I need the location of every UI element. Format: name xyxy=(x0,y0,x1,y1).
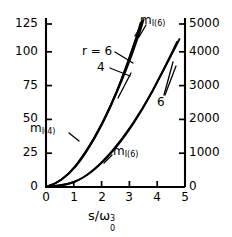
x-axis-label-base: s/ xyxy=(88,208,99,223)
right-tick-4000: 4000 xyxy=(189,45,229,57)
left-tick-75: 75 xyxy=(4,79,38,91)
x-tick-1: 1 xyxy=(66,191,82,203)
x-tick-3: 3 xyxy=(121,191,137,203)
x-tick-5: 5 xyxy=(177,191,193,203)
right-tick-5000: 5000 xyxy=(189,17,229,29)
left-tick-100: 100 xyxy=(4,45,38,57)
m16-mid-sub: I(6) xyxy=(125,150,139,159)
x-axis-label-omega: ω xyxy=(99,208,110,223)
curve-m16-r6 xyxy=(46,39,180,187)
annotation-six: 6 xyxy=(157,96,165,108)
x-axis-label-subscript: 0 xyxy=(110,225,115,233)
curve-group-m16 xyxy=(46,39,180,187)
right-tick-0: 0 xyxy=(189,180,229,192)
x-tick-2: 2 xyxy=(94,191,110,203)
right-tick-3000: 3000 xyxy=(189,79,229,91)
left-tick-25: 25 xyxy=(4,146,38,158)
annotation-four: 4 xyxy=(97,61,105,73)
left-tick-0: 0 xyxy=(4,180,38,192)
m16-top-sub: I(6) xyxy=(152,19,166,28)
leader-m14 xyxy=(69,133,79,141)
annotation-m16-top: mI(6) xyxy=(140,14,165,28)
m16-top-base: m xyxy=(140,13,152,27)
left-tick-125: 125 xyxy=(4,17,38,29)
right-tick-1000: 1000 xyxy=(189,146,229,158)
curve-m16-r2 xyxy=(46,42,177,187)
right-tick-2000: 2000 xyxy=(189,112,229,124)
x-tick-4: 4 xyxy=(149,191,165,203)
m14-base: m xyxy=(30,121,42,135)
annotation-m14: mI(4) xyxy=(30,122,55,136)
annotation-r-equals: r = 6 xyxy=(82,45,112,57)
x-axis-label: s/ω 3 0 xyxy=(88,209,116,222)
figure-panel: 125 100 75 50 25 0 5000 4000 3000 2000 1… xyxy=(0,0,232,237)
x-tick-0: 0 xyxy=(38,191,54,203)
annotation-m16-mid: mI(6) xyxy=(113,145,138,159)
m14-sub: I(4) xyxy=(42,127,56,136)
m16-mid-base: m xyxy=(113,144,125,158)
x-axis-label-superscript: 3 xyxy=(110,215,115,223)
